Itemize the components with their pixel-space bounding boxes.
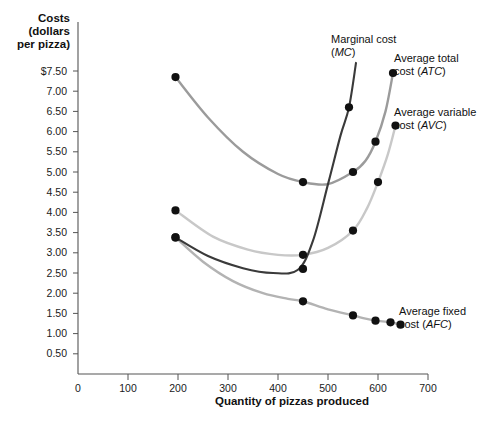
- y-tick-label: 5.50: [47, 145, 68, 157]
- data-point-avc: [171, 206, 179, 214]
- y-axis-ticks: [73, 71, 78, 354]
- data-point-mc: [171, 233, 179, 241]
- y-axis-title: Costs (dollars per pizza): [17, 12, 70, 50]
- data-point-mc: [299, 265, 307, 273]
- mc-label-line-2: (MC): [331, 46, 355, 58]
- mc-abbr: MC: [335, 46, 352, 58]
- y-tick-label: 2.50: [47, 267, 68, 279]
- x-tick-label: 700: [419, 382, 437, 394]
- y-tick-label: $7.50: [41, 65, 67, 77]
- y-tick-label: 3.00: [47, 246, 68, 258]
- x-tick-label: 200: [169, 382, 187, 394]
- atc-label-line-2: cost (ATC): [394, 65, 446, 77]
- data-point-atc: [171, 73, 179, 81]
- data-point-avc: [374, 178, 382, 186]
- cost-curves-chart: 0.501.001.502.002.503.003.504.004.505.00…: [0, 0, 489, 422]
- y-tick-label: 7.00: [47, 85, 68, 97]
- y-tick-label: 4.50: [47, 186, 68, 198]
- annotation-average-variable-cost: Average variable cost (AVC): [394, 106, 476, 131]
- x-axis-tick-labels: 0100200300400500600700: [75, 382, 437, 394]
- data-point-afc: [349, 311, 357, 319]
- data-point-atc: [299, 178, 307, 186]
- mc-label-line-1: Marginal cost: [331, 33, 396, 45]
- x-tick-label: 0: [75, 382, 81, 394]
- x-tick-label: 300: [219, 382, 237, 394]
- y-axis-title-line-3: per pizza): [17, 38, 70, 50]
- data-point-mc: [345, 103, 353, 111]
- y-axis-title-line-2: (dollars: [28, 25, 70, 37]
- chart-canvas: 0.501.001.502.002.503.003.504.004.505.00…: [0, 0, 489, 422]
- avc-prefix: cost (: [394, 119, 421, 131]
- atc-prefix: cost (: [394, 65, 421, 77]
- data-point-afc: [371, 317, 379, 325]
- x-tick-label: 400: [269, 382, 287, 394]
- data-point-avc: [299, 251, 307, 259]
- afc-label-line-2: cost (AFC): [399, 318, 452, 330]
- x-tick-label: 500: [319, 382, 337, 394]
- atc-abbr: ATC: [420, 65, 442, 77]
- y-tick-label: 0.50: [47, 347, 68, 359]
- data-point-afc: [299, 297, 307, 305]
- atc-paren-close: ): [442, 65, 446, 77]
- avc-abbr: AVC: [420, 119, 443, 131]
- y-tick-label: 5.00: [47, 166, 68, 178]
- curve-avc: [176, 126, 396, 256]
- y-tick-label: 6.50: [47, 105, 68, 117]
- annotation-marginal-cost: Marginal cost (MC): [331, 33, 396, 58]
- afc-abbr: AFC: [425, 318, 448, 330]
- mc-paren-close: ): [352, 46, 356, 58]
- curves-layer: [176, 63, 401, 325]
- data-point-markers: [171, 69, 404, 329]
- data-point-atc: [349, 168, 357, 176]
- avc-paren-close: ): [443, 119, 447, 131]
- y-tick-label: 1.00: [47, 327, 68, 339]
- afc-label-line-1: Average fixed: [399, 305, 466, 317]
- x-axis-ticks: [128, 374, 428, 380]
- y-tick-label: 1.50: [47, 307, 68, 319]
- data-point-afc: [386, 318, 394, 326]
- curve-atc: [176, 73, 394, 185]
- y-tick-label: 6.00: [47, 125, 68, 137]
- annotation-average-total-cost: Average total cost (ATC): [394, 52, 459, 77]
- y-axis-tick-labels: 0.501.001.502.002.503.003.504.004.505.00…: [41, 65, 67, 360]
- x-tick-label: 100: [119, 382, 137, 394]
- y-tick-label: 3.50: [47, 226, 68, 238]
- curve-afc: [176, 237, 401, 324]
- afc-paren-close: ): [448, 318, 452, 330]
- y-tick-label: 4.00: [47, 206, 68, 218]
- atc-label-line-1: Average total: [394, 52, 459, 64]
- avc-label-line-1: Average variable: [394, 106, 476, 118]
- y-tick-label: 2.00: [47, 287, 68, 299]
- x-tick-label: 600: [369, 382, 387, 394]
- x-axis-title: Quantity of pizzas produced: [215, 395, 369, 407]
- y-axis-title-line-1: Costs: [38, 12, 70, 24]
- avc-label-line-2: cost (AVC): [394, 119, 447, 131]
- annotation-average-fixed-cost: Average fixed cost (AFC): [399, 305, 466, 330]
- data-point-avc: [349, 226, 357, 234]
- data-point-atc: [371, 138, 379, 146]
- afc-prefix: cost (: [399, 318, 426, 330]
